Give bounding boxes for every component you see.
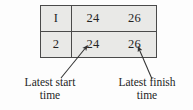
latest-start-caption: Latest start time — [3, 76, 97, 102]
table-row: I 24 26 — [41, 6, 156, 32]
latest-finish-caption: Latest finish time — [101, 76, 193, 102]
cell-activity-id: I — [41, 6, 72, 31]
cell-latest-start: 24 — [72, 32, 114, 58]
schedule-table: I 24 26 2 24 26 — [40, 5, 157, 58]
table-row: 2 24 26 — [41, 32, 156, 58]
latest-start-caption-line2: time — [3, 89, 97, 102]
latest-finish-caption-line2: time — [101, 89, 193, 102]
cell-latest-start: 24 — [72, 6, 114, 31]
cell-activity-id: 2 — [41, 32, 72, 58]
latest-finish-caption-line1: Latest finish — [101, 76, 193, 89]
cell-latest-finish: 26 — [114, 6, 155, 31]
cell-latest-finish: 26 — [114, 32, 155, 58]
figure-root: I 24 26 2 24 26 Latest start time Latest… — [0, 0, 193, 110]
latest-start-caption-line1: Latest start — [3, 76, 97, 89]
